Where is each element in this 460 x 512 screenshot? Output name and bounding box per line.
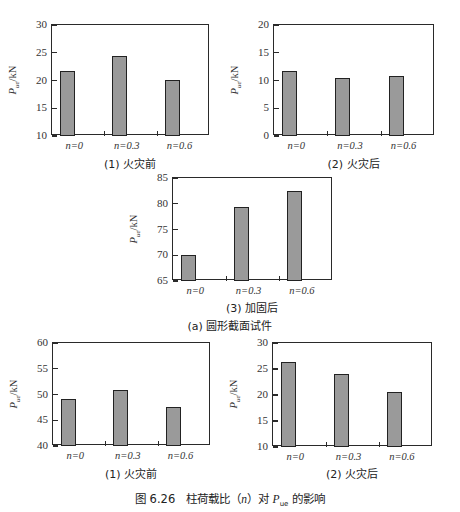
y-tick [273, 420, 278, 421]
bar-n-0 [181, 255, 196, 281]
y-tick [52, 52, 57, 53]
y-tick [274, 52, 279, 53]
x-tick [279, 276, 280, 281]
figure-number: 图 6.26 [135, 492, 175, 506]
y-axis-title: Pue/kN [128, 199, 142, 259]
x-tick-label: n=0 [45, 450, 105, 461]
x-tick-label: n=0 [266, 140, 326, 151]
y-tick-label: 10 [245, 74, 269, 86]
figure-caption: 图 6.26 柱荷载比（n）对 Pue 的影响 [80, 490, 380, 508]
figure-caption-text-2: ）对 [247, 492, 273, 506]
bar-n-0-3 [335, 78, 350, 136]
plot-frame-chart3 [172, 177, 332, 280]
chart-subcaption: (2) 火灾后 [274, 155, 434, 171]
bar-n-0-3 [113, 390, 128, 446]
chart-subcaption: (2) 火灾后 [272, 465, 432, 481]
y-axis-title: Pue/kN [228, 364, 242, 424]
chart-subcaption: (1) 火灾前 [51, 465, 211, 481]
y-tick [53, 368, 58, 369]
y-tick [274, 135, 279, 136]
y-tick [52, 80, 57, 81]
bar-n-0 [281, 362, 296, 447]
bar-n-0-3 [234, 207, 249, 281]
y-tick [273, 394, 278, 395]
x-tick-label: n=0.3 [98, 450, 158, 461]
x-tick [158, 441, 159, 446]
y-tick [273, 446, 278, 447]
x-tick-label: n=0.3 [219, 285, 279, 296]
y-tick-label: 25 [244, 362, 268, 374]
y-tick-label: 25 [23, 46, 47, 58]
x-tick-label: n=0 [44, 140, 104, 151]
y-tick-label: 75 [144, 223, 168, 235]
y-tick [53, 420, 58, 421]
x-tick-label: n=0.6 [272, 285, 332, 296]
x-tick-label: n=0.6 [150, 140, 210, 151]
x-tick-label: n=0.3 [320, 140, 380, 151]
y-tick [173, 280, 178, 281]
x-tick-label: n=0.3 [97, 140, 157, 151]
y-tick [53, 394, 58, 395]
y-tick-label: 60 [24, 336, 48, 348]
y-tick-label: 20 [23, 74, 47, 86]
y-tick-label: 45 [24, 413, 48, 425]
x-tick-label: n=0.6 [372, 451, 432, 462]
plot-frame-chart1 [51, 24, 209, 135]
x-tick [381, 131, 382, 136]
bar-n-0-6 [389, 76, 404, 136]
figure-caption-text-3: 的影响 [288, 492, 325, 506]
figure-caption-var-p: P [273, 493, 280, 505]
x-tick [379, 442, 380, 447]
bar-n-0-6 [165, 80, 180, 136]
plot-frame-chart4 [52, 342, 210, 445]
y-axis-title: Pue/kN [7, 50, 21, 110]
y-tick-label: 30 [244, 336, 268, 348]
y-tick-label: 20 [245, 18, 269, 30]
y-axis-title: Pue/kN [8, 364, 22, 424]
bar-n-0 [282, 71, 297, 136]
x-tick [157, 131, 158, 136]
y-tick [274, 108, 279, 109]
x-tick-label: n=0.6 [374, 140, 434, 151]
x-tick [104, 131, 105, 136]
group-caption-a: (a) 圆形截面试件 [130, 317, 330, 333]
x-tick-label: n=0.6 [151, 450, 211, 461]
x-tick-label: n=0 [265, 451, 325, 462]
bar-n-0-3 [112, 56, 127, 136]
plot-frame-chart2 [273, 24, 434, 135]
y-tick-label: 15 [23, 101, 47, 113]
chart-subcaption: (3) 加固后 [172, 299, 332, 315]
x-tick [327, 131, 328, 136]
x-tick [326, 442, 327, 447]
plot-frame-chart5 [272, 342, 432, 446]
x-tick-label: n=0.3 [319, 451, 379, 462]
bar-n-0-6 [166, 407, 181, 446]
y-tick [173, 203, 178, 204]
bar-n-0-6 [287, 191, 302, 281]
y-tick [53, 445, 58, 446]
y-tick [173, 229, 178, 230]
y-tick [273, 368, 278, 369]
y-tick [52, 108, 57, 109]
bar-n-0-3 [334, 374, 349, 447]
y-tick-label: 15 [244, 414, 268, 426]
y-tick-label: 55 [24, 362, 48, 374]
x-tick [105, 441, 106, 446]
bar-n-0 [60, 71, 75, 136]
bar-n-0 [61, 399, 76, 446]
figure-caption-text-1: 柱荷载比（ [186, 492, 241, 506]
y-tick [173, 255, 178, 256]
y-tick-label: 15 [245, 46, 269, 58]
y-tick-label: 50 [24, 388, 48, 400]
y-tick-label: 5 [245, 101, 269, 113]
chart-subcaption: (1) 火灾前 [50, 155, 210, 171]
y-tick-label: 80 [144, 197, 168, 209]
y-tick-label: 85 [144, 171, 168, 183]
y-tick [53, 342, 58, 343]
x-tick-label: n=0 [165, 285, 225, 296]
y-tick [274, 80, 279, 81]
y-tick-label: 20 [244, 388, 268, 400]
y-tick-label: 70 [144, 248, 168, 260]
y-tick [52, 135, 57, 136]
y-tick [173, 177, 178, 178]
